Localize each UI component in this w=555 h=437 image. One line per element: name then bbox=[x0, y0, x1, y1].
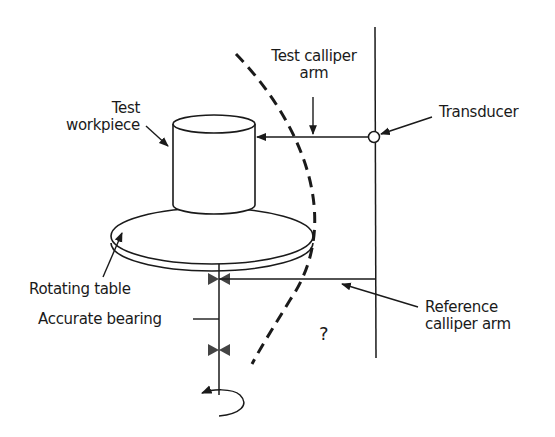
label-reference-line1: Reference bbox=[425, 299, 511, 316]
reference-column bbox=[375, 27, 376, 358]
label-test-workpiece-line1: Test bbox=[46, 100, 140, 117]
label-reference-calliper-arm: Reference calliper arm bbox=[425, 299, 511, 333]
label-test-calliper-line1: Test calliper bbox=[255, 48, 373, 65]
label-reference-line2: calliper arm bbox=[425, 316, 511, 333]
leader-transducer bbox=[381, 117, 432, 134]
leader-test-workpiece bbox=[146, 126, 168, 146]
label-transducer: Transducer bbox=[439, 104, 518, 121]
label-test-workpiece-line2: workpiece bbox=[46, 117, 140, 134]
leader-reference-calliper bbox=[342, 284, 418, 307]
label-question-mark: ? bbox=[319, 325, 328, 342]
rotation-arrow-icon bbox=[202, 390, 244, 416]
test-workpiece bbox=[173, 115, 255, 214]
label-test-workpiece: Test workpiece bbox=[46, 100, 140, 134]
transducer-icon bbox=[369, 132, 380, 143]
rotating-table bbox=[111, 208, 313, 271]
label-test-calliper-line2: arm bbox=[255, 65, 373, 82]
label-rotating-table: Rotating table bbox=[29, 281, 131, 298]
label-accurate-bearing: Accurate bearing bbox=[38, 311, 162, 328]
label-test-calliper-arm: Test calliper arm bbox=[255, 48, 373, 82]
